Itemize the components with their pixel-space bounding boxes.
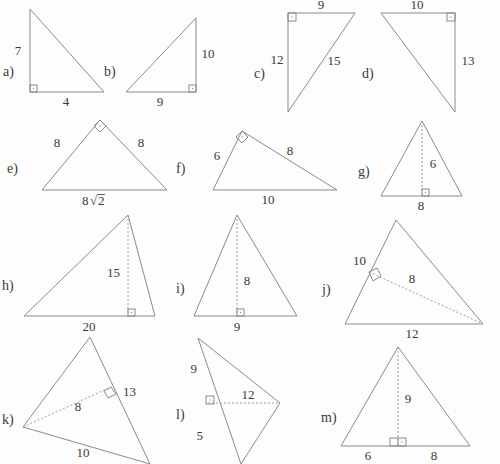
triangles-canvas: a) 7 4 b) 10 9 c) 9 12 15 d) [0, 0, 500, 464]
right-angle-dot-i [240, 312, 241, 313]
triangle-l-outline [198, 338, 280, 464]
figure-label-j: j) [321, 282, 331, 298]
figure-m: m) 9 6 8 [321, 347, 470, 463]
length-label-b-base: 9 [157, 94, 164, 109]
figure-l: l) 9 12 5 [176, 338, 280, 464]
triangle-d-outline [381, 13, 455, 112]
right-angle-dot-f [241, 136, 242, 137]
length-label-e-base-radicand: 2 [98, 193, 105, 208]
figure-h: h) 15 20 [2, 215, 155, 334]
figure-a: a) 7 4 [3, 9, 104, 109]
length-label-j-altitude: 8 [409, 271, 416, 286]
length-label-m-height: 9 [405, 391, 412, 406]
figure-g: g) 6 8 [358, 121, 462, 213]
right-angle-marker-j [369, 268, 381, 281]
geometry-worksheet: a) 7 4 b) 10 9 c) 9 12 15 d) [0, 0, 500, 464]
triangle-f-outline [213, 131, 337, 190]
length-label-m-base-right: 8 [431, 448, 438, 463]
figure-label-a: a) [3, 64, 14, 80]
length-label-c-hypotenuse: 15 [328, 53, 341, 68]
length-label-j-left-side: 10 [353, 253, 366, 268]
figure-k: k) 8 13 10 [2, 337, 150, 464]
figure-label-b: b) [104, 64, 116, 80]
length-label-a-base: 4 [63, 94, 70, 109]
right-angle-dot-c [291, 16, 292, 17]
figure-j: j) 10 8 12 [321, 220, 483, 341]
right-angle-dot-e [99, 125, 100, 126]
figure-b: b) 10 9 [104, 18, 215, 109]
length-label-c-top: 9 [318, 0, 325, 12]
length-label-k-right-side: 13 [123, 384, 136, 399]
figure-i: i) 8 9 [176, 215, 297, 334]
triangle-h-outline [24, 215, 155, 316]
length-label-f-left: 6 [214, 148, 221, 163]
right-angle-dot-m [401, 441, 402, 442]
length-label-g-height: 6 [430, 156, 437, 171]
length-label-d-vertical: 13 [462, 53, 475, 68]
figure-c: c) 9 12 15 [254, 0, 355, 112]
figure-f: f) 6 8 10 [176, 131, 337, 207]
length-label-g-base: 8 [418, 198, 425, 213]
length-label-m-base-left: 6 [365, 448, 372, 463]
triangle-i-outline [194, 215, 297, 316]
length-label-h-base: 20 [83, 319, 96, 334]
length-label-k-base: 10 [77, 445, 90, 460]
length-label-l-altitude: 12 [242, 387, 255, 402]
figure-label-h: h) [2, 278, 14, 294]
length-label-f-right: 8 [287, 143, 294, 158]
figure-label-f: f) [176, 161, 186, 177]
right-angle-dot-b [192, 88, 193, 89]
length-label-j-base: 12 [406, 326, 419, 341]
length-label-f-base: 10 [262, 192, 275, 207]
length-label-c-vertical: 12 [271, 52, 284, 67]
radical-sign-icon: √ [90, 193, 98, 208]
right-angle-dot-a [33, 88, 34, 89]
figure-label-g: g) [358, 164, 370, 180]
right-angle-dot-l [209, 399, 210, 400]
length-label-k-altitude: 8 [75, 399, 82, 414]
figure-label-i: i) [176, 281, 185, 297]
figure-label-d: d) [362, 66, 374, 82]
length-label-e-right: 8 [138, 135, 145, 150]
length-label-d-top: 10 [411, 0, 424, 12]
triangle-b-outline [126, 18, 196, 92]
length-label-e-base-coefficient: 8 [82, 193, 89, 208]
right-angle-dot-g [425, 192, 426, 193]
triangle-c-outline [288, 13, 355, 112]
length-label-e-left: 8 [54, 135, 61, 150]
figure-label-c: c) [254, 66, 265, 82]
figure-e: e) 8 8 8 √ 2 [7, 120, 167, 208]
figure-label-m: m) [321, 410, 337, 426]
figure-label-k: k) [2, 412, 14, 428]
length-label-l-upper-segment: 9 [191, 361, 198, 376]
length-label-i-height: 8 [244, 273, 251, 288]
length-label-a-vertical: 7 [15, 43, 22, 58]
length-label-e-base: 8 √ 2 [82, 193, 105, 208]
right-angle-dot-h [131, 312, 132, 313]
figure-label-l: l) [176, 407, 185, 423]
length-label-b-vertical: 10 [202, 46, 215, 61]
length-label-h-height: 15 [107, 265, 120, 280]
figure-label-e: e) [7, 161, 18, 177]
figure-d: d) 10 13 [362, 0, 475, 112]
length-label-i-base: 9 [234, 319, 241, 334]
altitude-line-j [369, 272, 483, 324]
altitude-line-k [23, 387, 111, 427]
length-label-l-lower-segment: 5 [197, 428, 204, 443]
right-angle-dot-d [450, 16, 451, 17]
triangle-a-outline [30, 9, 104, 92]
triangle-e-outline [42, 120, 167, 190]
